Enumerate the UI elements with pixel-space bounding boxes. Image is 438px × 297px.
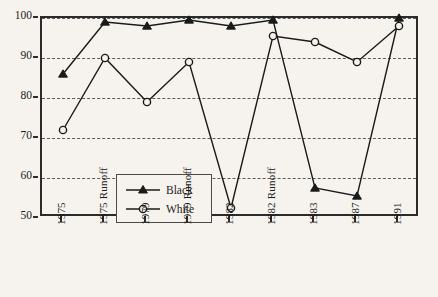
y-tick-label: 100 xyxy=(15,10,32,22)
x-tick-label: 1979 Runoff xyxy=(181,167,193,225)
data-point-white xyxy=(143,98,150,105)
x-tick-label: 1975 Runoff xyxy=(97,167,109,225)
x-tick-label: 1982 Runoff xyxy=(265,167,277,225)
y-tick-label: 90 xyxy=(21,50,33,62)
x-tick-label: 1987 xyxy=(349,202,361,225)
y-tick-mark xyxy=(33,176,38,178)
x-tick-label: 1979 xyxy=(139,202,151,225)
data-point-white xyxy=(269,32,276,39)
y-tick-mark xyxy=(33,216,38,218)
legend-sample-triangle-icon xyxy=(125,184,161,196)
data-point-white xyxy=(101,54,108,61)
data-point-black xyxy=(395,14,404,21)
y-tick-label: 50 xyxy=(21,210,33,222)
data-point-black xyxy=(311,184,320,191)
x-tick-label: 1983 xyxy=(307,202,319,225)
data-point-white xyxy=(59,126,66,133)
x-tick-label: 1975 xyxy=(55,202,67,225)
series-line-black xyxy=(63,18,399,196)
data-point-black xyxy=(269,16,278,23)
data-point-white xyxy=(353,58,360,65)
x-tick-label: 1991 xyxy=(391,202,403,225)
data-point-black xyxy=(185,16,194,23)
y-tick-label: 60 xyxy=(21,170,33,182)
y-tick-label: 70 xyxy=(21,130,33,142)
legend-item-black: Black xyxy=(117,180,211,199)
data-point-white xyxy=(185,58,192,65)
data-point-white xyxy=(395,22,402,29)
x-tick-label: 1982 xyxy=(223,202,235,225)
data-point-white xyxy=(311,38,318,45)
y-tick-mark xyxy=(33,96,38,98)
data-point-black xyxy=(101,18,110,25)
line-chart: 5060708090100 Black White xyxy=(0,0,438,297)
y-tick-mark xyxy=(33,56,38,58)
y-tick-mark xyxy=(33,16,38,18)
x-axis: 19751975 Runoff19791979 Runoff19821982 R… xyxy=(40,216,418,297)
series-line-white xyxy=(63,26,399,208)
y-axis: 5060708090100 xyxy=(0,16,38,216)
y-tick-label: 80 xyxy=(21,90,33,102)
y-tick-mark xyxy=(33,136,38,138)
